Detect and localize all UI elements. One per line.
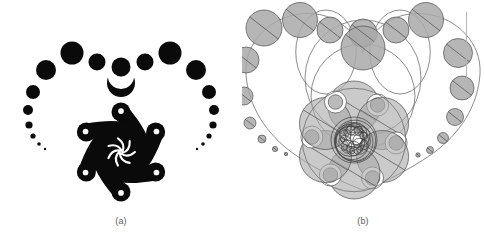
black-disk xyxy=(26,85,40,99)
black-disk xyxy=(209,105,219,115)
black-disk xyxy=(36,60,56,80)
black-disk xyxy=(23,105,33,115)
black-disk xyxy=(186,60,206,80)
swirl-arm-eye xyxy=(154,129,160,135)
figure-panel-b: (b) xyxy=(242,0,484,250)
gray-disk xyxy=(242,47,259,73)
swirl-arm-eye xyxy=(154,170,160,176)
black-disk xyxy=(201,142,205,146)
black-disk xyxy=(202,85,216,99)
crescent-dot xyxy=(115,63,128,76)
panel-b-canvas xyxy=(242,0,484,218)
black-disk xyxy=(137,54,154,71)
black-disk xyxy=(159,42,182,65)
black-disk xyxy=(89,54,106,71)
swirl-arm-eye xyxy=(83,129,89,135)
swirl-arm-eye xyxy=(83,170,89,176)
black-disk xyxy=(196,148,198,150)
panel-a-core-rosette xyxy=(106,137,136,167)
annulus-inner xyxy=(328,95,343,110)
swirl-arm-eye xyxy=(118,190,124,196)
panel-b-caption: (b) xyxy=(242,216,484,226)
panel-a-caption: (a) xyxy=(0,216,242,226)
black-disk xyxy=(37,142,41,146)
figure-root: (a) (b) xyxy=(0,0,484,250)
black-disk xyxy=(44,148,46,150)
panel-a-crescent xyxy=(107,63,135,97)
black-disk xyxy=(30,133,35,138)
figure-panel-a: (a) xyxy=(0,0,242,250)
page-rule-mark xyxy=(466,12,467,79)
black-disk xyxy=(209,121,216,128)
black-disk xyxy=(61,42,84,65)
black-disk xyxy=(25,121,32,128)
panel-a-canvas xyxy=(0,0,242,218)
swirl-arm-eye xyxy=(118,108,124,114)
panel-b-circle-chain xyxy=(242,3,474,158)
black-disk xyxy=(206,133,211,138)
